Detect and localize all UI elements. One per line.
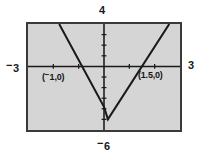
point-label-right: (1.5,0) (138, 71, 163, 80)
negative-sign-icon: − (97, 137, 103, 149)
negative-sign-icon: − (6, 59, 12, 71)
x-axis-min-value: 3 (13, 62, 19, 74)
y-axis-max-label: 4 (99, 5, 105, 16)
x-axis-min-label: −3 (6, 60, 19, 74)
graph-figure: −3 3 4 −6 (−1,0) (1.5,0) (0, 0, 203, 156)
x-axis-max-label: 3 (188, 60, 194, 71)
point-label-left: (−1,0) (42, 71, 64, 82)
y-axis-min-value: 6 (104, 140, 110, 152)
point-x-value: 1.5 (141, 70, 153, 80)
paren-close: ,0) (54, 72, 64, 82)
paren-close: ,0) (153, 70, 163, 80)
y-axis-min-label: −6 (97, 138, 110, 152)
